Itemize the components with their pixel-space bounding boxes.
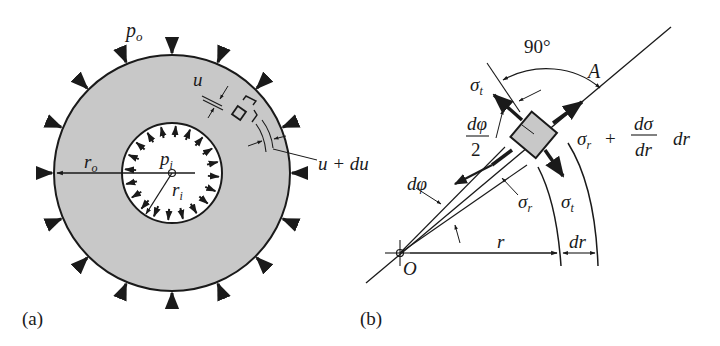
outer-pressure-arrow: [257, 258, 268, 269]
panel-a-caption: (a): [22, 308, 43, 330]
arc-r: [538, 167, 561, 266]
half-dphi-arrow-upper: [519, 90, 541, 101]
inner-pressure-arrow: [175, 126, 176, 137]
outer-pressure-arrow: [218, 47, 224, 62]
outer-pressure-arrow: [76, 258, 87, 269]
wedge-line-upper: [400, 147, 505, 253]
sigma-r-plus-dsigma-dr-label: σr + dσ dr dr: [577, 113, 691, 160]
stress-element: [510, 112, 556, 158]
panel-b: 90° A σt dφ 2 σr + dσ dr dr dφ σr σt r d…: [360, 27, 691, 330]
outer-pressure-arrow: [46, 219, 61, 225]
sigma-r-label: σr: [518, 191, 532, 215]
svg-text:dφ: dφ: [467, 113, 487, 134]
svg-text:dr: dr: [635, 139, 653, 160]
radius-label: r: [497, 231, 505, 252]
outer-pressure-label: po: [124, 19, 143, 44]
svg-text:+: +: [605, 128, 616, 149]
sigma-r-pointer: [502, 178, 518, 195]
inner-pressure-arrow: [208, 176, 219, 177]
dr-label: dr: [569, 231, 587, 252]
outer-pressure-arrow: [46, 121, 61, 127]
outer-pressure-arrow: [257, 77, 268, 88]
dphi-pointer-lower: [455, 225, 460, 243]
svg-text:2: 2: [471, 139, 481, 160]
point-a-label: A: [586, 60, 601, 82]
sigma-t-label: σt: [561, 191, 574, 215]
displacement-label: u: [193, 69, 203, 90]
sigma-t-upper-arrow: [494, 95, 522, 120]
outer-pressure-arrow: [120, 284, 126, 299]
half-dphi-arrow-lower: [496, 110, 503, 138]
displacement-plus-label: u + du: [318, 153, 369, 174]
svg-text:dr: dr: [673, 128, 691, 149]
inner-pressure-arrow: [168, 209, 169, 220]
outer-pressure-arrow: [218, 284, 224, 299]
panel-b-caption: (b): [360, 308, 382, 330]
inner-pressure-arrow: [125, 169, 136, 170]
right-angle-arc: [503, 69, 600, 88]
outer-pressure-arrow: [120, 47, 126, 62]
outer-pressure-arrow: [283, 219, 298, 225]
sigma-t-upper-label: σt: [470, 74, 483, 98]
outer-pressure-arrow: [283, 121, 298, 127]
thick-walled-cylinder-figure: po pi ro ri u u + du (a): [0, 0, 720, 346]
dphi-label: dφ: [407, 173, 427, 194]
origin-label: O: [403, 258, 417, 279]
svg-text:dσ: dσ: [634, 113, 654, 134]
half-dphi-label: dφ 2: [466, 113, 489, 160]
svg-text:σr: σr: [577, 128, 591, 152]
sigma-t-lower-arrow: [545, 150, 563, 176]
sigma-r-plus-arrow: [553, 102, 582, 123]
angle-label: 90°: [524, 36, 551, 57]
panel-a: po pi ro ri u u + du (a): [22, 19, 369, 330]
outer-pressure-arrow: [76, 77, 87, 88]
